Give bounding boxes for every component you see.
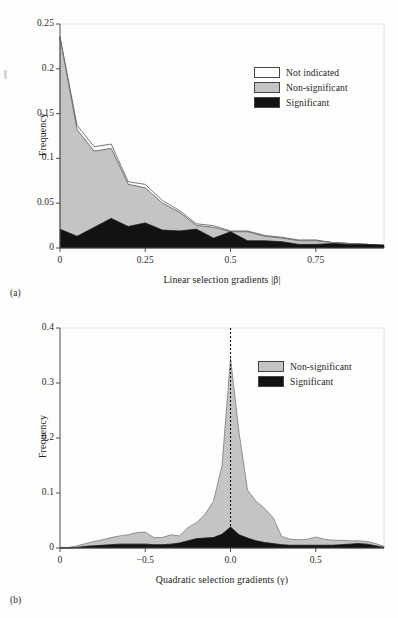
panel-b-legend: Non-significantSignificant	[258, 360, 352, 388]
panel-a-legend: Not indicatedNon-significantSignificant	[254, 66, 348, 109]
x-tick-label: 0.75	[296, 255, 336, 265]
legend-swatch	[258, 376, 284, 387]
legend-label: Non-significant	[290, 361, 352, 372]
y-tick-label: 0.1	[14, 487, 54, 497]
x-tick-label: 0.25	[125, 255, 165, 265]
panel-a: Frequency Linear selection gradients |β|…	[0, 0, 398, 310]
legend-swatch	[254, 82, 280, 93]
panel-b: Frequency Quadratic selection gradients …	[0, 300, 398, 618]
x-tick-label: 0.0	[211, 555, 251, 565]
panel-b-tag: (b)	[10, 595, 21, 605]
legend-item: Significant	[254, 96, 348, 109]
y-tick-label: 0.1	[14, 152, 54, 162]
legend-item: Significant	[258, 375, 352, 388]
y-tick-label: 0.2	[14, 432, 54, 442]
figure-root: Frequency Linear selection gradients |β|…	[0, 0, 398, 618]
panel-a-x-axis-title: Linear selection gradients |β|	[20, 274, 398, 285]
legend-swatch	[254, 97, 280, 108]
x-tick-label: 0	[40, 555, 80, 565]
legend-item: Not indicated	[254, 66, 348, 79]
y-tick-label: 0.25	[14, 18, 54, 28]
legend-label: Non-significant	[286, 82, 348, 93]
panel-a-y-axis-title: Frequency	[37, 75, 48, 195]
panel-a-tag: (a)	[10, 288, 21, 298]
x-tick-label: −0.5	[125, 555, 165, 565]
x-tick-label: 0	[40, 255, 80, 265]
y-tick-label: 0	[14, 542, 54, 552]
y-tick-label: 0.4	[14, 322, 54, 332]
legend-label: Not indicated	[286, 67, 339, 78]
y-tick-label: 0.2	[14, 63, 54, 73]
legend-label: Significant	[286, 97, 329, 108]
legend-item: Non-significant	[258, 360, 352, 373]
legend-label: Significant	[290, 376, 333, 387]
legend-swatch	[254, 67, 280, 78]
y-tick-label: 0	[14, 242, 54, 252]
y-tick-label: 0.3	[14, 377, 54, 387]
x-tick-label: 0.5	[296, 555, 336, 565]
y-tick-label: 0.15	[14, 108, 54, 118]
panel-b-x-axis-title: Quadratic selection gradients (γ)	[20, 574, 398, 585]
legend-item: Non-significant	[254, 81, 348, 94]
x-tick-label: 0.5	[211, 255, 251, 265]
panel-b-plot	[0, 300, 398, 618]
legend-swatch	[258, 361, 284, 372]
y-tick-label: 0.05	[14, 197, 54, 207]
